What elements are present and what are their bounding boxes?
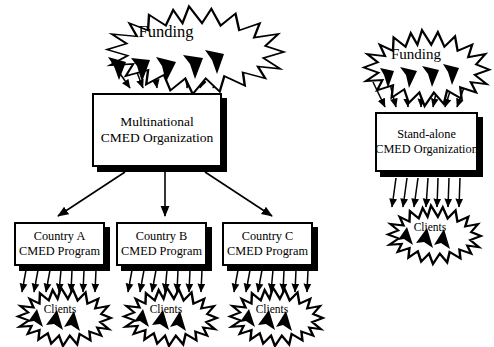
country-b-cmed-program-box[interactable]: Country B CMED Program [116, 222, 207, 266]
country-a-box-line2: CMED Program [19, 244, 100, 259]
multinational-cmed-organization-box[interactable]: Multinational CMED Organization [92, 93, 222, 167]
multinational-box-line1: Multinational [120, 114, 194, 130]
country-c-box-line2: CMED Program [227, 244, 308, 259]
standalone-cmed-organization-box[interactable]: Stand-alone CMED Organization [375, 112, 478, 172]
country-c-box-line1: Country C [242, 229, 294, 244]
country-a-box-line1: Country A [34, 229, 86, 244]
multinational-box-line2: CMED Organization [101, 130, 214, 146]
country-a-cmed-program-box[interactable]: Country A CMED Program [14, 222, 105, 266]
standalone-box-line1: Stand-alone [397, 127, 456, 142]
country-c-cmed-program-box[interactable]: Country C CMED Program [222, 222, 313, 266]
country-b-box-line2: CMED Program [121, 244, 202, 259]
diagram-canvas: Funding Funding Clients Clients Clients … [0, 0, 494, 347]
country-b-box-line1: Country B [136, 229, 188, 244]
standalone-box-line2: CMED Organization [375, 142, 478, 157]
